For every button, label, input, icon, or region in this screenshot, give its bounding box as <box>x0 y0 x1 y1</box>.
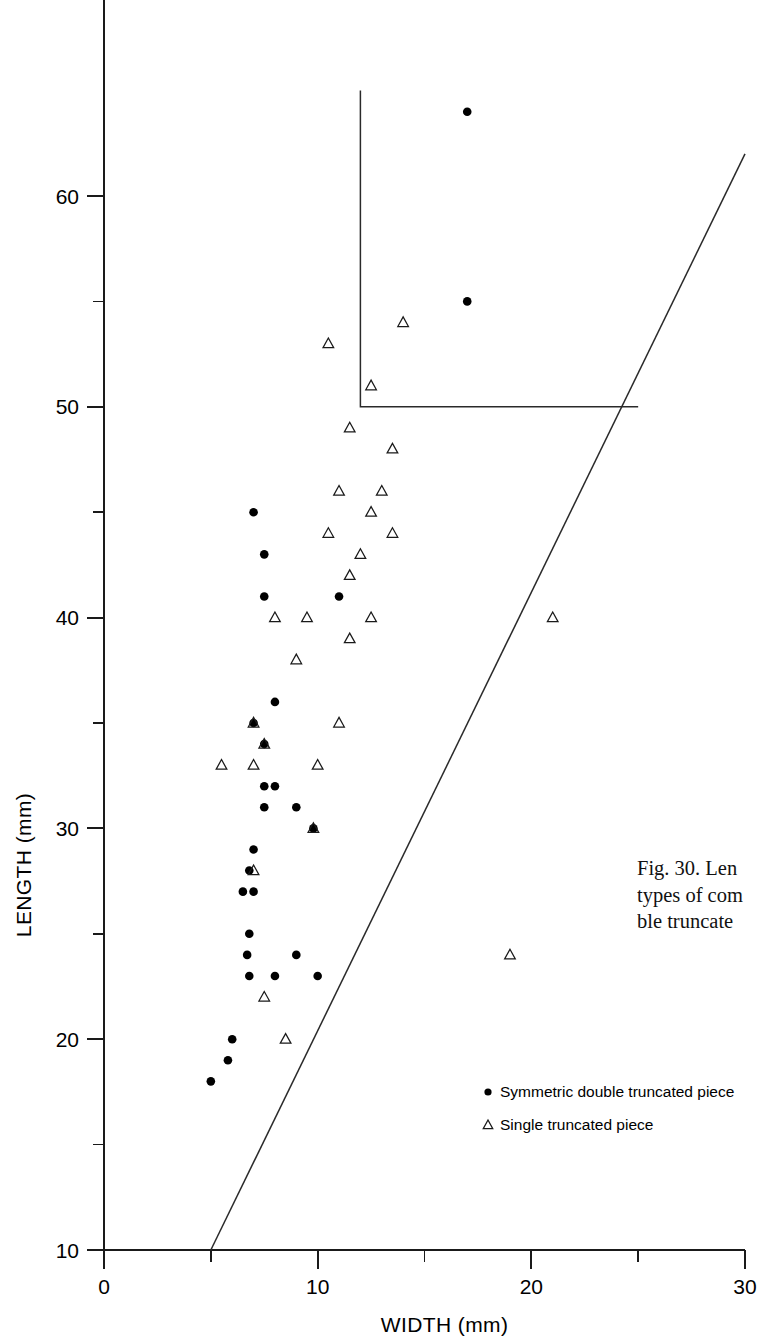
data-point-circle <box>239 887 248 896</box>
data-point-circle <box>249 845 258 854</box>
data-point-circle <box>271 782 280 791</box>
data-point-triangle <box>302 612 313 622</box>
data-point-triangle <box>355 549 366 559</box>
x-tick-label: 30 <box>733 1275 756 1298</box>
data-point-circle <box>249 508 258 517</box>
data-point-circle <box>260 592 269 601</box>
data-point-triangle <box>291 654 302 664</box>
legend-group: Symmetric double truncated pieceSingle t… <box>483 1083 734 1133</box>
data-point-circle <box>463 107 472 116</box>
figure-caption: Fig. 30. Len types of com ble truncate <box>637 855 757 935</box>
data-point-triangle <box>344 570 355 580</box>
data-point-triangle <box>216 760 227 770</box>
data-point-circle <box>335 592 344 601</box>
data-point-triangle <box>248 760 259 770</box>
caption-line-1: Fig. 30. Len <box>637 855 757 882</box>
data-point-triangle <box>366 612 377 622</box>
y-tick-label: 30 <box>56 817 79 840</box>
data-point-circle <box>313 972 322 981</box>
x-axis-title: WIDTH (mm) <box>381 1313 509 1336</box>
data-point-circle <box>260 782 269 791</box>
legend-marker-filled-circle-icon <box>484 1088 491 1095</box>
data-point-circle <box>292 803 301 812</box>
data-point-circle <box>224 1056 233 1065</box>
series-single-truncated <box>216 317 558 1043</box>
data-point-circle <box>243 951 252 960</box>
boundary-lines-group <box>211 91 745 1250</box>
data-point-triangle <box>366 507 377 517</box>
scatter-plot: 1020304050600102030WIDTH (mm)LENGTH (mm)… <box>0 0 757 1342</box>
axis-labels-group: 1020304050600102030WIDTH (mm)LENGTH (mm) <box>12 185 757 1337</box>
data-point-triangle <box>344 422 355 432</box>
data-point-triangle <box>398 317 409 327</box>
x-tick-label: 20 <box>520 1275 543 1298</box>
data-points-group <box>207 107 558 1085</box>
x-tick-label: 10 <box>306 1275 329 1298</box>
caption-line-3: ble truncate <box>637 908 757 935</box>
data-point-circle <box>245 972 254 981</box>
caption-line-2: types of com <box>637 882 757 909</box>
legend-label-double-truncated: Symmetric double truncated piece <box>500 1083 734 1100</box>
data-point-circle <box>271 972 280 981</box>
data-point-triangle <box>334 486 345 496</box>
data-point-circle <box>260 550 269 559</box>
y-tick-label: 10 <box>56 1239 79 1262</box>
y-axis-title: LENGTH (mm) <box>12 793 35 937</box>
data-point-triangle <box>376 486 387 496</box>
figure-container: 1020304050600102030WIDTH (mm)LENGTH (mm)… <box>0 0 757 1342</box>
data-point-circle <box>207 1077 216 1086</box>
legend-marker-open-triangle-icon <box>483 1120 493 1129</box>
data-point-triangle <box>344 633 355 643</box>
data-point-triangle <box>259 991 270 1001</box>
data-point-circle <box>249 887 258 896</box>
data-point-circle <box>228 1035 237 1044</box>
x-tick-label: 0 <box>98 1275 110 1298</box>
series-double-truncated <box>207 107 472 1085</box>
data-point-triangle <box>323 528 334 538</box>
data-point-triangle <box>505 949 516 959</box>
legend-label-single-truncated: Single truncated piece <box>500 1116 653 1133</box>
y-tick-label: 20 <box>56 1028 79 1051</box>
data-point-triangle <box>280 1034 291 1044</box>
data-point-triangle <box>387 443 398 453</box>
y-tick-label: 40 <box>56 606 79 629</box>
y-tick-label: 50 <box>56 395 79 418</box>
data-point-triangle <box>334 717 345 727</box>
data-point-triangle <box>547 612 558 622</box>
data-point-circle <box>260 803 269 812</box>
axes-group <box>87 0 745 1269</box>
data-point-triangle <box>323 338 334 348</box>
data-point-triangle <box>366 380 377 390</box>
data-point-circle <box>292 951 301 960</box>
data-point-circle <box>463 297 472 306</box>
y-tick-label: 60 <box>56 185 79 208</box>
data-point-triangle <box>312 760 323 770</box>
data-point-circle <box>245 930 254 939</box>
data-point-triangle <box>270 612 281 622</box>
data-point-circle <box>271 698 280 707</box>
data-point-triangle <box>387 528 398 538</box>
upper-right-threshold-box <box>360 91 638 407</box>
